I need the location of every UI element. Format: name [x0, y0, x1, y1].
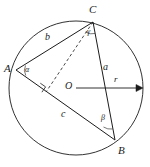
vertex-label-a: A — [4, 63, 11, 74]
vertex-label-c: C — [89, 4, 96, 15]
side-a-line — [93, 22, 115, 140]
angle-label-gamma: γ — [87, 28, 90, 36]
center-label-o: O — [65, 81, 72, 91]
radius-arrowhead — [136, 85, 143, 92]
radius-label-r: r — [114, 75, 118, 84]
angle-label-alpha: α — [25, 66, 29, 74]
geometry-figure: A C B b a c α γ β O r — [0, 0, 150, 167]
geometry-canvas — [0, 0, 150, 167]
side-b-line — [16, 22, 93, 70]
side-label-c: c — [61, 109, 65, 119]
angle-beta-arc — [104, 127, 113, 129]
side-label-a: a — [103, 62, 108, 72]
side-label-b: b — [45, 32, 50, 42]
vertex-label-b: B — [118, 145, 125, 156]
angle-label-beta: β — [101, 114, 105, 122]
